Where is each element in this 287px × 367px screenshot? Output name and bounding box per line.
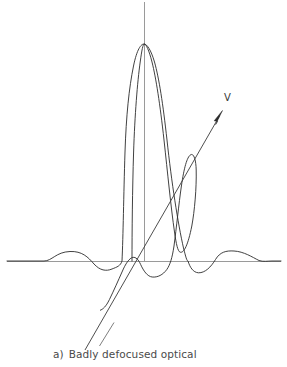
inner-response-curve (100, 44, 196, 310)
caption-text: Badly defocused optical (69, 348, 197, 360)
figure-caption: a)Badly defocused optical (53, 348, 273, 361)
figure-container: V a)Badly defocused optical (0, 0, 287, 367)
optical-response-plot (0, 0, 287, 367)
caption-marker: a) (53, 348, 64, 360)
vector-axis-line (85, 116, 220, 350)
vector-axis-label: V (224, 92, 231, 103)
caption-leader-line (100, 323, 115, 347)
